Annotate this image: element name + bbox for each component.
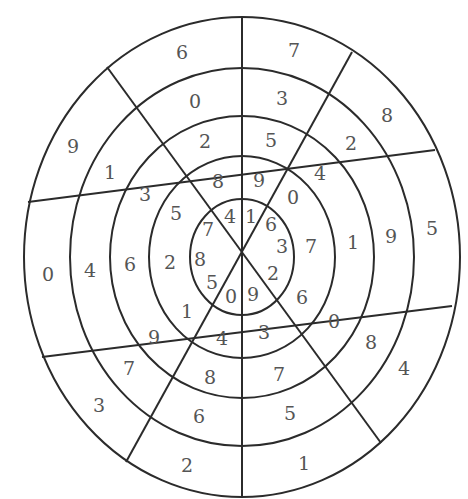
cell-digit: 9 [247, 283, 259, 305]
cell-digit: 0 [328, 310, 340, 332]
cell-digit: 8 [204, 366, 216, 388]
cell-digit: 6 [124, 253, 136, 275]
cell-digit: 9 [148, 326, 160, 348]
digit-labels: 1953760428371952608493751048625197382640… [42, 39, 438, 476]
cell-digit: 5 [426, 217, 438, 239]
cell-digit: 5 [265, 129, 277, 151]
spoke-line-3 [126, 52, 352, 462]
cell-digit: 9 [253, 169, 265, 191]
cell-digit: 4 [314, 162, 326, 184]
cell-digit: 2 [199, 130, 211, 152]
cell-digit: 0 [189, 90, 201, 112]
cell-digit: 8 [194, 248, 206, 270]
cell-digit: 0 [287, 186, 299, 208]
cell-digit: 3 [276, 87, 288, 109]
cell-digit: 7 [273, 363, 285, 385]
cell-digit: 5 [170, 202, 182, 224]
cell-digit: 8 [381, 104, 393, 126]
cell-digit: 8 [365, 331, 377, 353]
spoke-line-5 [42, 306, 452, 357]
cell-digit: 0 [225, 285, 237, 307]
cell-digit: 5 [284, 402, 296, 424]
cell-digit: 4 [216, 327, 228, 349]
cell-digit: 3 [93, 394, 105, 416]
cell-digit: 3 [258, 321, 270, 343]
cell-digit: 6 [265, 213, 277, 235]
spoke-line-4 [28, 150, 435, 202]
cell-digit: 7 [288, 39, 300, 61]
cell-digit: 1 [104, 161, 116, 183]
cell-digit: 3 [139, 183, 151, 205]
cell-digit: 2 [345, 132, 357, 154]
cell-digit: 7 [123, 357, 135, 379]
number-wheel-diagram: 1953760428371952608493751048625197382640… [0, 0, 468, 499]
cell-digit: 7 [202, 218, 214, 240]
cell-digit: 4 [224, 205, 236, 227]
cell-digit: 2 [164, 251, 176, 273]
cell-digit: 2 [181, 454, 193, 476]
radial-spokes [28, 16, 452, 496]
cell-digit: 6 [193, 405, 205, 427]
cell-digit: 1 [181, 300, 193, 322]
cell-digit: 1 [347, 231, 359, 253]
cell-digit: 6 [176, 41, 188, 63]
cell-digit: 0 [42, 263, 54, 285]
cell-digit: 1 [298, 452, 310, 474]
cell-digit: 2 [267, 262, 279, 284]
cell-digit: 5 [206, 271, 218, 293]
cell-digit: 8 [212, 170, 224, 192]
cell-digit: 9 [67, 135, 79, 157]
cell-digit: 7 [305, 235, 317, 257]
cell-digit: 6 [296, 286, 308, 308]
cell-digit: 4 [84, 259, 96, 281]
cell-digit: 1 [245, 205, 257, 227]
cell-digit: 3 [276, 235, 288, 257]
cell-digit: 9 [385, 225, 397, 247]
cell-digit: 4 [398, 357, 410, 379]
